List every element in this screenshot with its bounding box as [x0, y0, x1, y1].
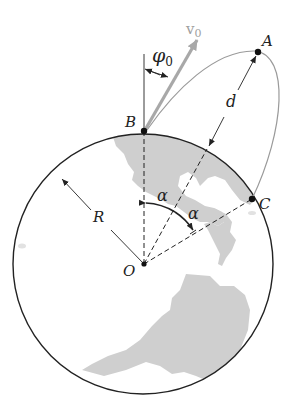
island-right-speck	[248, 211, 256, 215]
label-phi0: φ0	[152, 44, 173, 69]
r-radius-line-upper	[62, 179, 91, 210]
earth-trajectory-diagram: v0 φ0 A B C O d R α α	[0, 0, 296, 406]
point-c-dot	[249, 196, 255, 202]
r-radius-line-lower	[111, 230, 144, 264]
label-v0: v0	[185, 20, 201, 40]
island-left-speck	[18, 244, 26, 249]
point-o-dot	[141, 261, 146, 266]
label-o: O	[123, 262, 135, 280]
north-america-shape	[112, 134, 258, 226]
d-dimension-line-upper	[238, 56, 256, 90]
label-d: d	[226, 92, 236, 111]
d-dimension-line-lower	[209, 117, 224, 146]
label-a: A	[260, 32, 273, 50]
label-alpha-1: α	[157, 186, 168, 205]
label-c: C	[259, 195, 271, 213]
label-r: R	[92, 208, 104, 226]
point-b-dot	[141, 128, 147, 134]
point-a-dot	[255, 49, 261, 55]
label-b: B	[124, 113, 136, 131]
phi0-arrow-back	[145, 69, 160, 75]
label-alpha-2: α	[188, 204, 199, 223]
diagram-stage: v0 φ0 A B C O d R α α	[0, 0, 296, 406]
